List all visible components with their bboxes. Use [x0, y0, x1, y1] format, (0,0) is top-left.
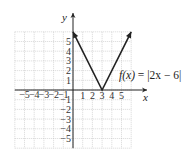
x-axis-label: x [142, 91, 148, 103]
function-label: f(x) = |2x − 6| [119, 69, 181, 82]
graph-canvas: −5−4−3−2−11234554321−1−2−3−4−5 y x f(x) … [0, 0, 189, 155]
function-name: f(x) [119, 69, 135, 82]
x-tick-label: 1 [80, 90, 85, 101]
x-tick-label: 4 [109, 90, 114, 101]
x-tick-label: 5 [119, 90, 124, 101]
function-expression: = |2x − 6| [135, 69, 181, 82]
y-tick-label: 1 [66, 75, 71, 86]
x-tick-label: 2 [90, 90, 95, 101]
y-axis-label: y [61, 11, 67, 23]
y-tick-label: −5 [60, 133, 71, 144]
